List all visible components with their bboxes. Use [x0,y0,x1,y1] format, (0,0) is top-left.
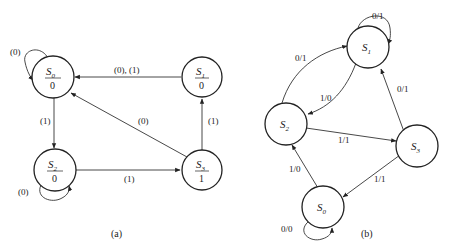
label-a-s3-s0: (0) [138,116,149,126]
diagram-a: (0) (1) (0), (1) (0) (1) (0) (1) S0 0 S1… [10,47,222,240]
edge-b-s3-s0 [343,155,400,197]
label-b-s3-s0: 1/1 [374,174,386,184]
state-b-s2: S2 [265,103,307,145]
edge-b-s2-s3 [306,128,396,141]
label-a-s0-self: (0) [10,47,21,57]
label-b-s2-s3: 1/1 [338,135,350,145]
svg-text:0: 0 [50,80,55,91]
caption-a: (a) [111,228,122,240]
label-a-s2-self: (0) [18,187,29,197]
state-a-s1: S1 0 [182,57,222,97]
caption-b: (b) [361,228,373,240]
edge-a-s3-s0 [71,93,187,157]
label-a-s1-s0: (0), (1) [114,65,140,75]
state-a-s2: S2 0 [34,149,76,191]
svg-text:0: 0 [52,173,57,184]
state-a-s3: S3 1 [182,150,222,190]
state-b-s1: S1 [347,26,389,68]
label-b-s0-self: 0/0 [281,224,293,234]
svg-text:0: 0 [199,80,204,91]
edge-b-s2-s1 [282,46,347,103]
label-b-s3-s1: 0/1 [397,84,409,94]
edge-b-s1-s2 [308,63,356,114]
state-b-s3: S3 [396,125,438,167]
label-a-s2-s3: (1) [124,174,135,184]
label-a-s0-s2: (1) [40,116,51,126]
label-b-s0-s2: 1/0 [289,164,301,174]
state-a-s0: S0 0 [32,56,74,98]
label-a-s3-s1: (1) [208,116,219,126]
label-b-s1-s2: 1/0 [320,93,332,103]
state-diagrams: (0) (1) (0), (1) (0) (1) (0) (1) S0 0 S1… [0,0,454,249]
diagram-b: 0/1 0/1 1/0 0/1 1/1 1/0 1/1 0/0 S1 S2 S3… [265,11,438,240]
label-b-s1-self: 0/1 [372,11,384,21]
state-b-s0: S0 [302,186,344,228]
svg-text:1: 1 [199,173,204,184]
label-b-s2-s1: 0/1 [295,53,307,63]
